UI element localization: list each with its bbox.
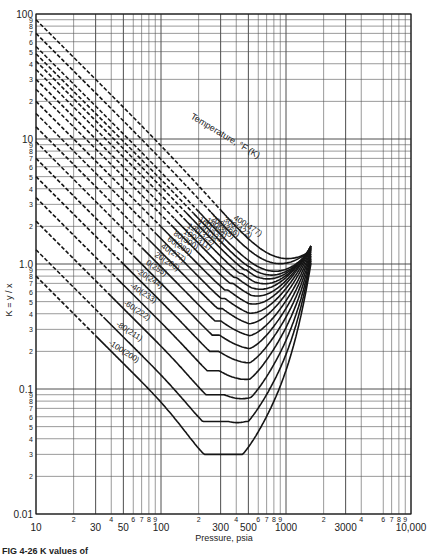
x-tick-label: 8 xyxy=(147,516,151,523)
curve-180(355)-dashed xyxy=(36,54,194,214)
x-tick-label: 100 xyxy=(153,522,170,533)
y-tick-label: 6 xyxy=(29,164,33,171)
x-tick-label: 2 xyxy=(322,516,326,523)
y-tick-label: 4 xyxy=(29,61,33,68)
x-tick-label: 6 xyxy=(256,516,260,523)
x-tick-label: 6 xyxy=(381,516,385,523)
x-tick-label: 4 xyxy=(359,516,363,523)
curve-120(322)-dashed xyxy=(36,79,175,219)
x-axis-title: Pressure, psia xyxy=(195,533,253,543)
y-tick-label: 8 xyxy=(29,23,33,30)
y-axis-ticks: 1009876543210987654321.0987654320.198765… xyxy=(14,9,34,520)
x-tick-label: 30 xyxy=(90,522,102,533)
y-tick-label: 4 xyxy=(29,186,33,193)
y-tick-label: 3 xyxy=(29,451,33,458)
y-tick-label: 2 xyxy=(29,348,33,355)
y-tick-label: 8 xyxy=(29,398,33,405)
x-tick-label: 2 xyxy=(72,516,76,523)
y-tick-label: 6 xyxy=(29,289,33,296)
y-tick-label: 4 xyxy=(29,436,33,443)
x-tick-label: 4 xyxy=(109,516,113,523)
y-tick-label: 5 xyxy=(29,424,33,431)
y-tick-label: 5 xyxy=(29,299,33,306)
y-tick-label: 3 xyxy=(29,76,33,83)
curve-200(366)-dashed xyxy=(36,47,199,212)
x-tick-label: 4 xyxy=(234,516,238,523)
y-tick-label: 8 xyxy=(29,273,33,280)
legend-title: Temperature, °F (K) xyxy=(189,111,262,160)
curve--100(200)-dashed xyxy=(36,276,96,336)
figure-caption: FIG 4-26 K values of xyxy=(2,546,89,556)
y-tick-label: 7 xyxy=(29,155,33,162)
y-axis-title: K = y / x xyxy=(4,283,14,316)
y-tick-label: 2 xyxy=(29,98,33,105)
x-tick-label: 50 xyxy=(118,522,130,533)
x-axis-ticks: 1023045067891002300450067891000230004678… xyxy=(30,516,426,533)
x-tick-label: 7 xyxy=(265,516,269,523)
y-tick-label: 5 xyxy=(29,174,33,181)
curve-label: -80(211) xyxy=(114,319,144,343)
y-tick-label: 6 xyxy=(29,39,33,46)
y-tick-label: 7 xyxy=(29,280,33,287)
curve-80(300)-dashed xyxy=(36,101,161,226)
curve--20(244)-dashed xyxy=(36,177,124,265)
x-tick-label: 7 xyxy=(390,516,394,523)
x-tick-label: 10 xyxy=(30,522,42,533)
x-tick-label: 500 xyxy=(240,522,257,533)
y-tick-label: 2 xyxy=(29,473,33,480)
y-tick-label: 2 xyxy=(29,223,33,230)
y-tick-label: 7 xyxy=(29,30,33,37)
curve-20(266)-dashed xyxy=(36,142,142,248)
k-value-chart: 400(477)300(422)200(366)180(355)160(344)… xyxy=(0,0,429,558)
y-tick-label: 6 xyxy=(29,414,33,421)
y-tick-label: 5 xyxy=(29,49,33,56)
y-tick-label: 8 xyxy=(29,148,33,155)
curve-40(277)-dashed xyxy=(36,127,149,240)
y-tick-label: 0.01 xyxy=(14,509,34,520)
x-tick-label: 2 xyxy=(197,516,201,523)
y-tick-label: 3 xyxy=(29,201,33,208)
x-tick-label: 300 xyxy=(212,522,229,533)
x-tick-label: 10,000 xyxy=(396,522,427,533)
x-tick-label: 3000 xyxy=(335,522,358,533)
y-tick-label: 4 xyxy=(29,311,33,318)
x-tick-label: 6 xyxy=(131,516,135,523)
x-tick-label: 7 xyxy=(140,516,144,523)
y-tick-label: 3 xyxy=(29,326,33,333)
x-tick-label: 1000 xyxy=(275,522,298,533)
y-tick-label: 7 xyxy=(29,405,33,412)
